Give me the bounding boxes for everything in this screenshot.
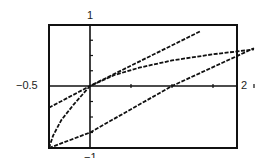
x-max-label: 2: [241, 80, 247, 91]
x-min-label: −0.5: [16, 80, 38, 91]
y-max-label: 1: [87, 10, 93, 21]
plot-area: [0, 0, 262, 158]
line-upper: [49, 31, 201, 108]
y-min-label: −1: [84, 152, 97, 158]
curve: [49, 49, 254, 148]
data-series: [49, 31, 254, 148]
line-lower: [49, 48, 254, 148]
